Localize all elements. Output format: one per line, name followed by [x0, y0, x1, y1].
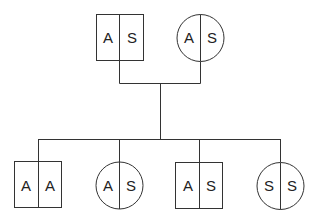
allele-right: S — [206, 177, 216, 194]
allele-left: A — [103, 29, 113, 46]
pedigree-diagram: A S A S A A A S A S S S — [0, 0, 322, 223]
father-symbol: A S — [97, 15, 144, 61]
mother-symbol: A S — [177, 15, 224, 62]
allele-right: S — [126, 177, 136, 194]
allele-left: A — [103, 177, 113, 194]
child-3-symbol: A S — [176, 163, 223, 209]
child-1-symbol: A A — [15, 162, 62, 208]
allele-right: S — [207, 29, 217, 46]
allele-right: S — [127, 29, 137, 46]
child-4-symbol: S S — [257, 163, 304, 210]
allele-left: A — [184, 29, 194, 46]
allele-left: A — [183, 177, 193, 194]
allele-right: A — [45, 177, 55, 194]
allele-left: S — [264, 177, 274, 194]
allele-right: S — [287, 177, 297, 194]
allele-left: A — [21, 177, 31, 194]
child-2-symbol: A S — [96, 162, 143, 209]
connector-lines — [39, 60, 281, 162]
mating-line — [120, 60, 201, 84]
